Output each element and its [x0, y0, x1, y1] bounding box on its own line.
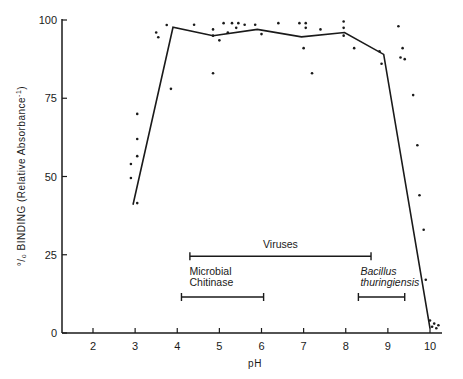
data-point — [433, 322, 436, 325]
data-point — [437, 324, 440, 327]
data-point — [136, 202, 139, 205]
y-tick-label: 100 — [39, 14, 57, 26]
data-point — [157, 36, 160, 39]
data-point — [130, 177, 133, 180]
y-axis-title-close: ) — [16, 86, 27, 90]
data-point — [424, 278, 427, 281]
y-tick-label: 50 — [45, 171, 57, 183]
annotation-range: MicrobialChitinase — [181, 265, 263, 301]
data-point — [170, 88, 173, 91]
data-point — [418, 194, 421, 197]
y-axis-title-superscript: -1 — [15, 90, 22, 97]
annotation-label: thuringiensis — [360, 276, 420, 288]
data-point — [416, 144, 419, 147]
annotation-range: Bacillusthuringiensis — [358, 265, 420, 301]
x-ticks: 2345678910 — [90, 328, 436, 352]
y-tick-label: 75 — [45, 92, 57, 104]
data-point — [422, 228, 425, 231]
organism-range-annotations: VirusesMicrobialChitinaseBacillusthuring… — [181, 238, 420, 301]
data-point — [193, 23, 196, 26]
data-point — [342, 34, 345, 37]
data-point — [431, 325, 434, 328]
ph-binding-chart: 0255075100 2345678910 pH °/₀ BINDING (Re… — [0, 0, 463, 379]
data-point — [155, 31, 158, 34]
x-tick-label: 6 — [258, 340, 264, 352]
data-point — [222, 22, 225, 25]
x-tick-label: 4 — [174, 340, 180, 352]
data-point — [403, 58, 406, 61]
data-point — [243, 23, 246, 26]
x-tick-label: 9 — [385, 340, 391, 352]
data-point — [136, 113, 139, 116]
data-point — [380, 63, 383, 66]
data-point — [130, 163, 133, 166]
data-point — [227, 31, 230, 34]
x-tick-label: 2 — [90, 340, 96, 352]
data-point — [399, 56, 402, 59]
data-point — [237, 22, 240, 25]
annotation-range: Viruses — [190, 238, 371, 260]
y-tick-label: 25 — [45, 249, 57, 261]
data-point — [277, 22, 280, 25]
data-point — [304, 27, 307, 30]
x-tick-label: 10 — [424, 340, 436, 352]
data-point — [298, 22, 301, 25]
data-point — [429, 319, 432, 322]
data-point — [218, 39, 221, 42]
data-point — [231, 22, 234, 25]
x-axis-title: pH — [248, 358, 262, 369]
data-point — [136, 155, 139, 158]
data-point — [412, 94, 415, 97]
annotation-label: Viruses — [263, 238, 298, 250]
data-point — [435, 327, 438, 330]
data-point — [319, 28, 322, 31]
data-point — [353, 47, 356, 50]
data-point — [378, 50, 381, 53]
x-tick-label: 8 — [343, 340, 349, 352]
data-point — [212, 34, 215, 37]
data-point — [212, 28, 215, 31]
data-point — [260, 33, 263, 36]
data-point — [302, 47, 305, 50]
data-point — [342, 20, 345, 23]
data-point — [342, 27, 345, 30]
data-point — [401, 47, 404, 50]
x-tick-label: 3 — [132, 340, 138, 352]
x-tick-label: 7 — [301, 340, 307, 352]
y-axis-title: °/₀ BINDING (Relative Absorbance-1) — [15, 86, 27, 266]
y-tick-label: 0 — [51, 327, 57, 339]
annotation-label: Chitinase — [189, 276, 233, 288]
data-point — [212, 72, 215, 75]
data-point — [304, 22, 307, 25]
data-point — [397, 25, 400, 28]
data-point — [254, 23, 257, 26]
data-point — [235, 27, 238, 30]
y-axis-title-main: °/₀ BINDING (Relative Absorbance — [16, 97, 27, 266]
data-point — [165, 24, 168, 27]
data-point — [136, 138, 139, 141]
x-tick-label: 5 — [216, 340, 222, 352]
data-point — [311, 72, 314, 75]
